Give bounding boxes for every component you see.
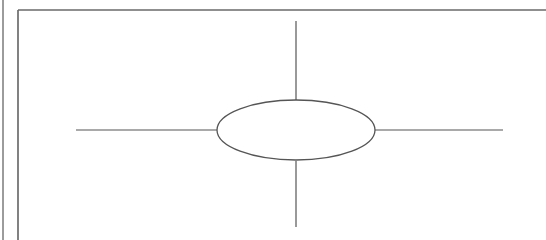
center-node-ellipse	[217, 100, 375, 160]
spider-diagram	[0, 0, 546, 240]
